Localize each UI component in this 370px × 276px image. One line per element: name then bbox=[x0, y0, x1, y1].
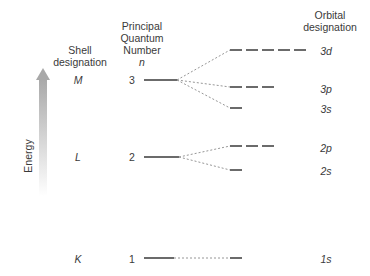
orbital-2p-label: 2p bbox=[314, 142, 338, 154]
n3-label: 3 bbox=[122, 74, 142, 86]
n1-label: 1 bbox=[122, 253, 142, 265]
energy-axis-label: Energy bbox=[22, 136, 34, 176]
shell-l-label: L bbox=[68, 151, 88, 163]
energy-arrow-icon bbox=[36, 68, 50, 196]
orbital-2s-label: 2s bbox=[314, 165, 338, 177]
orbital-3s-label: 3s bbox=[314, 103, 338, 115]
n2-label: 2 bbox=[122, 151, 142, 163]
orbital-1s-label: 1s bbox=[314, 253, 338, 265]
shell-lines bbox=[144, 80, 179, 258]
orbital-levels bbox=[230, 50, 306, 258]
shell-m-label: M bbox=[68, 74, 88, 86]
diagram-graphics bbox=[0, 0, 370, 276]
connectors bbox=[174, 50, 230, 258]
orbital-3p-label: 3p bbox=[314, 83, 338, 95]
orbital-3d-label: 3d bbox=[314, 45, 338, 57]
shell-k-label: K bbox=[68, 253, 88, 265]
